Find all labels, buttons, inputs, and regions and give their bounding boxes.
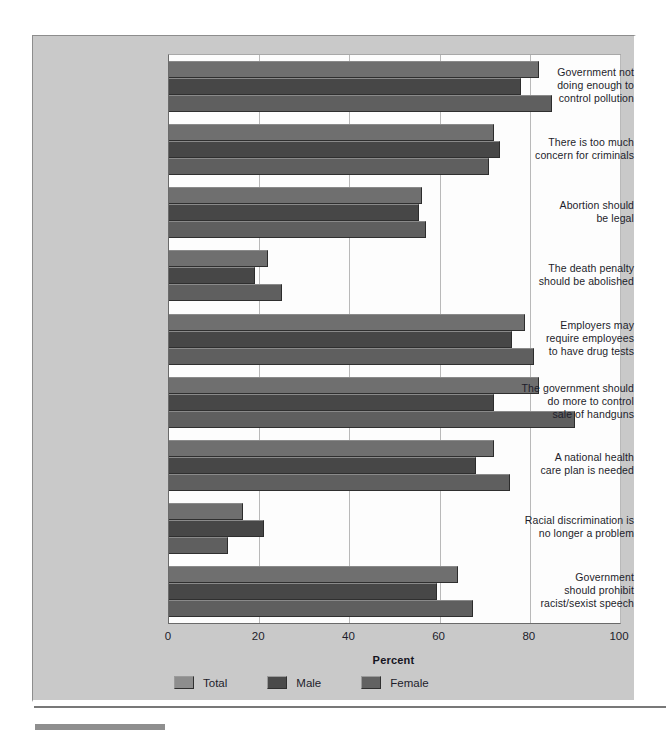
bar-male-2 xyxy=(169,204,419,221)
bar-male-3 xyxy=(169,267,255,284)
category-label-line: racist/sexist speech xyxy=(506,597,634,610)
footer-tab-marker xyxy=(35,724,165,730)
category-label-line: be legal xyxy=(506,212,634,225)
category-label-line: The government should xyxy=(506,382,634,395)
bar-female-0 xyxy=(169,95,552,112)
x-tick-label-100: 100 xyxy=(609,630,628,642)
category-label-line: Government not xyxy=(506,66,634,79)
category-label-line: Employers may xyxy=(506,319,634,332)
category-label-line: Government xyxy=(506,571,634,584)
category-label-line: to have drug tests xyxy=(506,345,634,358)
category-label-line: no longer a problem xyxy=(506,527,634,540)
category-label-line: concern for criminals xyxy=(506,149,634,162)
legend-item-female[interactable]: Female xyxy=(361,676,428,689)
bar-male-4 xyxy=(169,331,512,348)
bar-female-1 xyxy=(169,158,489,175)
legend-label-total: Total xyxy=(203,677,227,689)
category-label-line: doing enough to xyxy=(506,79,634,92)
bar-female-6 xyxy=(169,474,510,491)
category-label-line: do more to control xyxy=(506,395,634,408)
category-label-6: A national healthcare plan is needed xyxy=(506,451,634,477)
bar-total-8 xyxy=(169,566,458,583)
x-tick-label-20: 20 xyxy=(252,630,265,642)
bar-male-5 xyxy=(169,394,494,411)
x-tick-label-60: 60 xyxy=(432,630,445,642)
category-label-line: Abortion should xyxy=(506,199,634,212)
bar-male-0 xyxy=(169,78,521,95)
bar-male-7 xyxy=(169,520,264,537)
bar-total-6 xyxy=(169,440,494,457)
legend-swatch-female-icon xyxy=(361,676,381,689)
legend-label-female: Female xyxy=(390,677,428,689)
footer-divider-rule xyxy=(34,706,666,708)
bar-male-1 xyxy=(169,141,500,158)
category-label-line: The death penalty xyxy=(506,262,634,275)
x-tick-label-80: 80 xyxy=(522,630,535,642)
bar-total-2 xyxy=(169,187,422,204)
bar-total-7 xyxy=(169,503,243,520)
bar-female-7 xyxy=(169,537,228,554)
figure-panel: Government notdoing enough tocontrol pol… xyxy=(32,35,636,702)
bar-total-0 xyxy=(169,61,539,78)
category-label-line: care plan is needed xyxy=(506,464,634,477)
bar-male-8 xyxy=(169,583,437,600)
bar-female-4 xyxy=(169,348,534,365)
category-label-8: Governmentshould prohibitracist/sexist s… xyxy=(506,571,634,610)
bar-total-4 xyxy=(169,314,525,331)
bar-female-8 xyxy=(169,600,473,617)
category-label-line: control pollution xyxy=(506,92,634,105)
bar-total-5 xyxy=(169,377,539,394)
category-label-line: Racial discrimination is xyxy=(506,514,634,527)
legend-swatch-male-icon xyxy=(267,676,287,689)
category-label-line: sale of handguns xyxy=(506,408,634,421)
legend-swatch-total-icon xyxy=(174,676,194,689)
legend-label-male: Male xyxy=(296,677,321,689)
x-axis-title: Percent xyxy=(168,654,619,666)
category-label-line: require employees xyxy=(506,332,634,345)
category-label-5: The government shoulddo more to controls… xyxy=(506,382,634,421)
bar-female-2 xyxy=(169,221,426,238)
category-label-line: should be abolished xyxy=(506,275,634,288)
category-label-7: Racial discrimination isno longer a prob… xyxy=(506,514,634,540)
category-label-line: A national health xyxy=(506,451,634,464)
legend-item-total[interactable]: Total xyxy=(174,676,227,689)
bar-total-1 xyxy=(169,124,494,141)
category-label-4: Employers mayrequire employeesto have dr… xyxy=(506,319,634,358)
bar-total-3 xyxy=(169,250,268,267)
legend-item-male[interactable]: Male xyxy=(267,676,321,689)
category-label-2: Abortion shouldbe legal xyxy=(506,199,634,225)
category-label-3: The death penaltyshould be abolished xyxy=(506,262,634,288)
category-label-0: Government notdoing enough tocontrol pol… xyxy=(506,66,634,105)
bar-female-3 xyxy=(169,284,282,301)
x-tick-label-40: 40 xyxy=(342,630,355,642)
category-label-1: There is too muchconcern for criminals xyxy=(506,136,634,162)
chart-legend: TotalMaleFemale xyxy=(168,676,619,689)
category-label-line: should prohibit xyxy=(506,584,634,597)
bar-male-6 xyxy=(169,457,476,474)
category-label-line: There is too much xyxy=(506,136,634,149)
x-tick-label-0: 0 xyxy=(165,630,171,642)
